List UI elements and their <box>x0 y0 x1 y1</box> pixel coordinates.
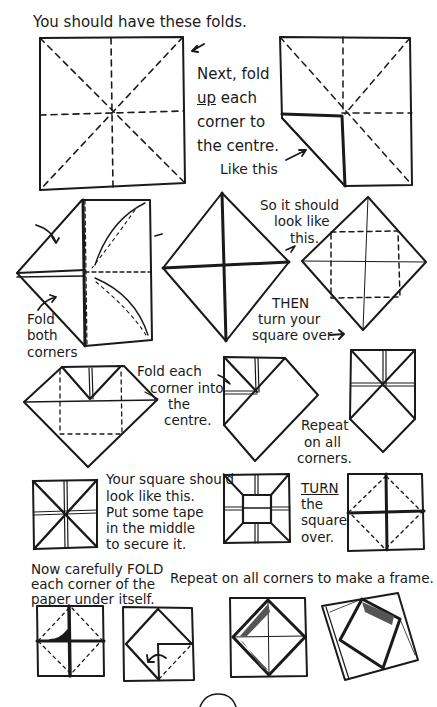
diagram-repeat-corners <box>350 350 415 452</box>
diagram-frame-final <box>322 593 418 680</box>
diagram-fold-under-2 <box>123 607 194 681</box>
fold-arrow-icon <box>147 655 166 662</box>
diagram-diamond-cross <box>163 193 289 341</box>
diagram-square-x <box>33 480 97 549</box>
arrow-icon <box>330 330 344 339</box>
origami-diagrams <box>0 0 437 707</box>
diagram-square-folds <box>40 37 185 190</box>
arrow-icon <box>192 44 204 52</box>
diagram-fold-each-corner <box>24 366 157 467</box>
diagram-fold-both-corners <box>17 200 152 346</box>
arrow-icon <box>36 225 59 243</box>
diagram-corner-folded <box>280 37 412 186</box>
arrow-icon <box>286 246 295 252</box>
arrow-icon <box>286 150 306 160</box>
diagram-taped-square <box>224 474 290 543</box>
diagram-turned-square <box>348 474 424 551</box>
diagram-fold-under-1 <box>37 606 104 676</box>
bottom-partial-shape <box>200 694 236 707</box>
diagram-corner-into-centre <box>224 357 318 461</box>
diagram-frame-diamond <box>230 598 307 677</box>
diagram-diamond-dashed <box>302 197 426 330</box>
